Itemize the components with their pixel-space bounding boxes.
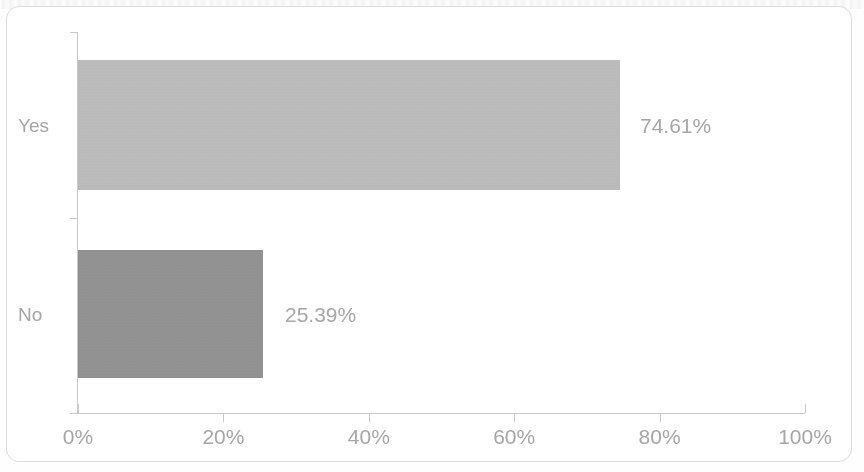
- category-label-yes: Yes: [18, 115, 70, 137]
- x-axis-tick-label: 80%: [639, 425, 681, 449]
- x-axis-tick-label: 40%: [348, 425, 390, 449]
- x-axis-tick: [223, 413, 224, 422]
- x-axis-tick-label: 60%: [493, 425, 535, 449]
- bar-no[interactable]: [78, 250, 263, 378]
- x-axis-tick: [805, 404, 806, 413]
- category-label-no: No: [18, 304, 70, 326]
- chart-screenshot: Yes No 74.61% 25.39% 0%20%40%60%80%100%: [0, 0, 864, 472]
- bar-yes[interactable]: [78, 60, 620, 190]
- bar-texture: [78, 60, 620, 190]
- x-axis-tick-label: 100%: [778, 425, 832, 449]
- x-axis-tick: [660, 413, 661, 422]
- x-axis-tick: [369, 413, 370, 422]
- bar-texture: [78, 250, 263, 378]
- y-axis-tick-top: [70, 32, 78, 33]
- x-axis-tick: [78, 404, 79, 413]
- value-label-yes: 74.61%: [640, 114, 711, 138]
- x-axis-tick: [514, 413, 515, 422]
- x-axis-tick-label: 20%: [202, 425, 244, 449]
- y-axis-tick-bottom: [70, 413, 78, 414]
- plot-area: Yes No 74.61% 25.39% 0%20%40%60%80%100%: [0, 0, 864, 472]
- x-axis-tick-label: 0%: [63, 425, 93, 449]
- y-axis-tick-middle: [70, 218, 78, 219]
- x-axis-line: [77, 413, 805, 414]
- value-label-no: 25.39%: [285, 303, 356, 327]
